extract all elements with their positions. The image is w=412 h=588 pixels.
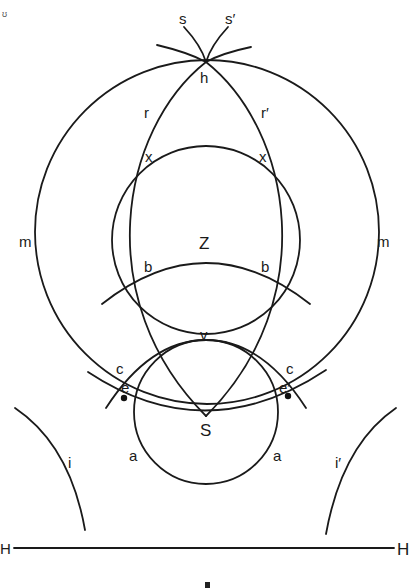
label-r-prime: r′ [261,104,269,121]
label-s-prime: s′ [225,10,236,27]
circle-m [35,60,379,404]
label-a-right: a [273,447,282,464]
label-c-right: c [286,360,294,377]
label-H-right: H [397,540,409,559]
label-r: r [144,104,149,121]
label-b-left: b [144,258,152,275]
label-Z: Z [199,234,209,253]
label-x-right: x [259,148,267,165]
label-e: e [121,379,129,396]
label-b-right: b [261,258,269,275]
label-c-left: c [116,360,124,377]
label-i-prime: i′ [335,454,341,471]
label-m-right: m [377,233,390,250]
label-h: h [200,69,208,86]
label-a-left: a [129,447,138,464]
curve-i-prime [326,408,396,534]
corner-mark: ʊ [2,9,7,19]
label-s: s [179,10,187,27]
circle-a [134,340,278,484]
label-m-left: m [19,233,32,250]
label-e-prime: e′ [279,379,290,396]
arc-r-prime [206,62,282,416]
arc-b [102,263,310,304]
label-x-left: x [145,148,153,165]
arc-r [130,62,206,416]
label-H-left: H [0,540,11,557]
label-i: i [68,454,71,471]
geometric-construction-diagram: ʊ s s′ h r r′ x x m m Z b b v c c e e′ S… [0,0,412,588]
curve-i [15,408,85,530]
label-v: v [200,326,208,343]
label-S: S [200,421,211,440]
bottom-mark [205,582,210,588]
